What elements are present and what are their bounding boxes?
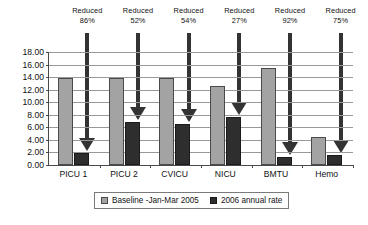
x-axis-tick-mark bbox=[150, 165, 151, 168]
bar-group bbox=[302, 52, 353, 165]
bar-group bbox=[252, 52, 303, 165]
bar-annual-rate bbox=[125, 122, 140, 165]
legend-label: Baseline -Jan-Mar 2005 bbox=[112, 196, 199, 206]
x-axis-label-bmtu: BMTU bbox=[249, 169, 303, 180]
x-axis-label-nicu: NICU bbox=[198, 169, 252, 180]
bar-group bbox=[49, 52, 100, 165]
y-axis-tick-label: 14.00 bbox=[0, 73, 44, 82]
y-axis-tick-label: 18.00 bbox=[0, 48, 44, 57]
y-axis-tick-label: 0.00 bbox=[0, 161, 44, 170]
reduction-percent: 75% bbox=[314, 16, 368, 26]
y-axis-tick-label: 12.00 bbox=[0, 86, 44, 95]
bar-baseline bbox=[210, 86, 225, 165]
plot-area bbox=[48, 52, 353, 166]
bar-baseline bbox=[109, 78, 124, 165]
y-axis-tick-mark bbox=[46, 165, 49, 166]
bar-baseline bbox=[159, 78, 174, 165]
reduction-annotation: Reduced27% bbox=[212, 6, 266, 26]
x-axis-tick-mark bbox=[201, 165, 202, 168]
reduction-label: Reduced bbox=[174, 6, 204, 15]
reduction-label: Reduced bbox=[123, 6, 153, 15]
reduction-percent: 86% bbox=[60, 16, 114, 26]
reduction-annotation: Reduced92% bbox=[263, 6, 317, 26]
reduction-percent: 27% bbox=[212, 16, 266, 26]
reduction-percent: 92% bbox=[263, 16, 317, 26]
reduction-annotation: Reduced54% bbox=[162, 6, 216, 26]
y-axis-tick-label: 16.00 bbox=[0, 61, 44, 70]
x-axis-label-picu-1: PICU 1 bbox=[46, 169, 100, 180]
legend-item: 2006 annual rate bbox=[210, 196, 282, 206]
y-axis-tick-label: 8.00 bbox=[0, 111, 44, 120]
annotation-row: Reduced86%Reduced52%Reduced54%Reduced27%… bbox=[0, 6, 368, 32]
y-axis-tick-label: 4.00 bbox=[0, 136, 44, 145]
bar-annual-rate bbox=[277, 157, 292, 165]
x-axis-label-hemo: Hemo bbox=[300, 169, 354, 180]
reduction-percent: 52% bbox=[111, 16, 165, 26]
x-axis-tick-mark bbox=[353, 165, 354, 168]
bar-group bbox=[100, 52, 151, 165]
x-axis-tick-mark bbox=[100, 165, 101, 168]
bar-chart: Reduced86%Reduced52%Reduced54%Reduced27%… bbox=[0, 0, 368, 225]
reduction-label: Reduced bbox=[275, 6, 305, 15]
reduction-label: Reduced bbox=[326, 6, 356, 15]
x-axis-tick-mark bbox=[252, 165, 253, 168]
reduction-label: Reduced bbox=[72, 6, 102, 15]
bar-group bbox=[150, 52, 201, 165]
reduction-annotation: Reduced86% bbox=[60, 6, 114, 26]
legend-swatch bbox=[210, 197, 217, 204]
bar-annual-rate bbox=[74, 153, 89, 165]
x-axis-labels: PICU 1PICU 2CVICUNICUBMTUHemo bbox=[48, 169, 352, 183]
bar-annual-rate bbox=[226, 117, 241, 165]
y-axis-tick-label: 6.00 bbox=[0, 123, 44, 132]
bar-baseline bbox=[311, 137, 326, 165]
x-axis-label-picu-2: PICU 2 bbox=[97, 169, 151, 180]
legend-item: Baseline -Jan-Mar 2005 bbox=[101, 196, 199, 206]
bar-baseline bbox=[58, 78, 73, 165]
bar-baseline bbox=[261, 68, 276, 165]
reduction-annotation: Reduced52% bbox=[111, 6, 165, 26]
y-axis-tick-label: 2.00 bbox=[0, 148, 44, 157]
legend-swatch bbox=[101, 197, 108, 204]
y-axis-tick-label: 10.00 bbox=[0, 98, 44, 107]
reduction-annotation: Reduced75% bbox=[314, 6, 368, 26]
reduction-percent: 54% bbox=[162, 16, 216, 26]
legend-label: 2006 annual rate bbox=[221, 196, 282, 206]
chart-legend: Baseline -Jan-Mar 20052006 annual rate bbox=[94, 192, 289, 209]
x-axis-label-cvicu: CVICU bbox=[148, 169, 202, 180]
bar-group bbox=[201, 52, 252, 165]
x-axis-tick-mark bbox=[302, 165, 303, 168]
bar-annual-rate bbox=[175, 124, 190, 165]
reduction-label: Reduced bbox=[224, 6, 254, 15]
bar-annual-rate bbox=[327, 155, 342, 165]
